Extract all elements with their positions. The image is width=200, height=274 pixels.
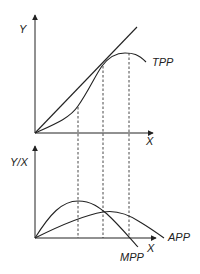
tpp-label: TPP (152, 56, 174, 68)
top-panel: Y X TPP (19, 15, 174, 147)
mpp-label: MPP (120, 251, 145, 263)
ray-from-origin (35, 27, 137, 133)
bottom-x-axis-label: X (146, 242, 155, 254)
bottom-y-axis-label: Y/X (10, 156, 28, 168)
top-y-axis-label: Y (19, 23, 27, 35)
production-curves-diagram: Y X TPP Y/X X APP MPP (0, 0, 200, 274)
top-x-axis-label: X (145, 135, 154, 147)
app-label: APP (167, 231, 191, 243)
app-curve (35, 211, 164, 238)
bottom-panel: Y/X X APP MPP (10, 146, 191, 263)
mpp-curve (35, 201, 138, 247)
